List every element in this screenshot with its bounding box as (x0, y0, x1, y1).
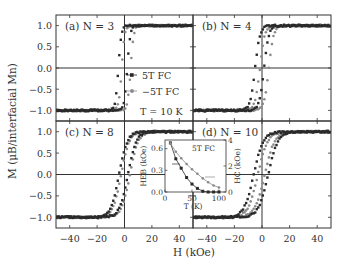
x-tick-label: 40 (173, 233, 185, 244)
y-axis-label: M (μB/interfacial Mn) (6, 63, 18, 179)
y-tick-label: 0.0 (37, 63, 52, 74)
inset-title: 5T FC (192, 144, 215, 153)
legend-label: −5T FC (142, 86, 179, 97)
inset-y-right-tick-label: 0 (228, 188, 233, 197)
inset-y-left-tick-label: 0.0 (151, 188, 163, 197)
inset-y-right-tick-label: 4 (228, 136, 233, 145)
panel-label: (a) N = 3 (65, 20, 114, 32)
x-tick-label: 0 (259, 233, 265, 244)
inset-y-left-label: HEB (kOe) (139, 145, 148, 186)
inset-x-label: T (K) (184, 202, 203, 211)
legend-entry: −5T FC (127, 86, 179, 97)
x-tick-label: −40 (60, 233, 80, 244)
y-tick-label: −1.0 (29, 105, 52, 116)
legend-label: 5T FC (142, 70, 171, 81)
panel-b: (b) N = 4 (192, 15, 331, 121)
y-tick-label: 0.5 (37, 41, 52, 52)
inset-x-tick-label: 100 (212, 194, 227, 203)
x-tick-label: −40 (197, 233, 217, 244)
panels-layer: 1.00.50.0−0.5−1.0(a) N = 3(b) N = 41.00.… (29, 15, 331, 244)
x-axis-label: H (kOe) (173, 246, 215, 258)
legend: 5T FC−5T FCT = 10 K (127, 70, 183, 118)
inset-x-tick-label: 0 (163, 194, 168, 203)
y-tick-label: 1.0 (37, 126, 52, 137)
x-tick-label: −20 (87, 233, 107, 244)
y-tick-label: 1.0 (37, 20, 52, 31)
temperature-annotation: T = 10 K (140, 106, 183, 117)
x-tick-label: −20 (224, 233, 244, 244)
hysteresis-figure: 1.00.50.0−0.5−1.0(a) N = 3(b) N = 41.00.… (0, 0, 346, 271)
y-tick-label: −0.5 (29, 84, 52, 95)
circle-marker-icon (130, 89, 134, 93)
x-tick-label: 20 (284, 233, 296, 244)
x-tick-label: 20 (146, 233, 158, 244)
square-marker-icon (130, 73, 134, 77)
y-tick-label: −1.0 (29, 212, 52, 223)
panel-label: (b) N = 4 (202, 20, 252, 32)
y-tick-label: −0.5 (29, 190, 52, 201)
inset-y-left-tick-label: 0.6 (151, 144, 163, 153)
x-tick-label: 0 (121, 233, 127, 244)
y-tick-label: 0.5 (37, 148, 52, 159)
inset-plot: 0501000.00.30.60245T FCT (K)HEB (kOe)HC … (139, 136, 242, 212)
legend-entry: 5T FC (127, 70, 171, 81)
panel-label: (c) N = 8 (65, 126, 114, 138)
inset-y-right-label: HC (kOe) (233, 148, 242, 184)
x-tick-label: 40 (311, 233, 323, 244)
inset-y-left-tick-label: 0.3 (151, 166, 163, 175)
y-tick-label: 0.0 (37, 169, 52, 180)
